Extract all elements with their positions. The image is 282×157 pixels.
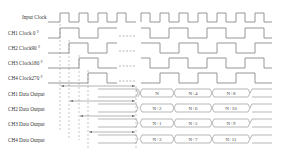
label-ch4-data: CH4 Data Output <box>8 137 45 143</box>
bus-word-ch4-1: N+7 <box>189 137 198 142</box>
bus-word-ch1-2: N+8 <box>227 91 236 96</box>
bus-word-ch4-0: N+3 <box>153 137 162 142</box>
bus-word-ch2-2: N+10 <box>225 106 237 111</box>
bus-word-ch3-1: N+5 <box>189 121 198 126</box>
waveform-ch2-clock <box>48 43 272 53</box>
bus-word-ch2-0: N+2 <box>153 106 162 111</box>
waveform-ch3-clock <box>48 58 272 68</box>
bus-word-ch3-0: N+1 <box>153 121 162 126</box>
label-ch3-data: CH3 Data Output <box>8 121 45 127</box>
bus-ch3-data: N+1 N+5 N+9 <box>98 119 272 127</box>
label-ch2-data: CH2 Data Output <box>8 106 45 112</box>
latency-arrows <box>61 85 135 133</box>
waveform-ch4-clock <box>48 73 272 83</box>
bus-ch4-data: N+3 N+7 N+11 <box>98 135 272 143</box>
bus-word-ch1-1: N+4 <box>189 91 198 96</box>
label-ch1-clock: CH1 Clock 0 ° <box>8 30 39 36</box>
bus-word-ch4-2: N+11 <box>225 137 237 142</box>
bus-ch2-data: N+2 N+6 N+10 <box>98 104 272 112</box>
timing-diagram: Input Clock CH1 Clock 0 ° CH2 Clock90 ° … <box>0 0 282 157</box>
label-ch3-clock: CH3 Clock180 ° <box>8 60 43 66</box>
waveform-ch1-clock <box>48 28 272 38</box>
bus-word-ch1-0: N <box>155 91 159 96</box>
waveform-input-clock <box>48 13 272 22</box>
bus-word-ch2-1: N+6 <box>189 106 198 111</box>
label-input-clock: Input Clock <box>22 14 47 20</box>
bus-word-ch3-2: N+9 <box>227 121 236 126</box>
label-ch1-data: CH1 Data Output <box>8 91 45 97</box>
bus-ch1-data: N N+4 N+8 <box>98 89 272 97</box>
label-ch2-clock: CH2 Clock90 ° <box>8 45 40 51</box>
label-ch4-clock: CH4 Clock270 ° <box>8 75 43 81</box>
